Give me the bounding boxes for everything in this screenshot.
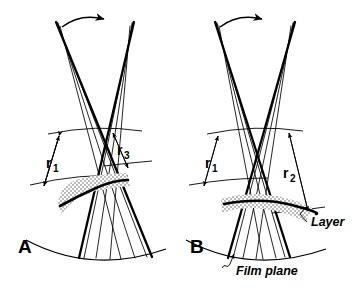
panel-a: r 1 r 3 A xyxy=(18,17,166,260)
panel-letter-b: B xyxy=(190,236,204,257)
dimension-label-r1: r xyxy=(46,155,52,171)
layer-label: Layer xyxy=(311,215,345,229)
dimension-subscript-r3: 3 xyxy=(124,150,130,161)
beam-bundle-right xyxy=(79,22,134,259)
figure-root: r 1 r 3 A xyxy=(0,0,357,288)
beam-bundle-left-b xyxy=(215,22,290,259)
layer-band xyxy=(45,165,145,225)
dimension-label-r2: r xyxy=(283,165,289,181)
dimension-r1: r 1 xyxy=(44,136,59,186)
rotation-arrow-icon xyxy=(62,17,104,27)
dimension-label-r3: r xyxy=(117,142,123,158)
dimension-subscript-r1: 1 xyxy=(53,163,59,174)
dimension-label-r1-b: r xyxy=(205,155,211,171)
panel-b: r 1 r 2 Layer Film plane B xyxy=(186,17,345,278)
dimension-subscript-r1-b: 1 xyxy=(212,163,218,174)
panel-letter-a: A xyxy=(18,236,32,257)
film-plane-label: Film plane xyxy=(236,264,298,278)
beam-bundle-right-b xyxy=(228,22,295,259)
rotation-arrow-icon-b xyxy=(220,17,262,27)
dimension-r3: r 3 xyxy=(113,133,130,168)
dimension-r1-b: r 1 xyxy=(204,136,218,186)
diagram-canvas: r 1 r 3 A xyxy=(0,0,357,288)
dimension-subscript-r2: 2 xyxy=(290,173,296,184)
beam-bundle-left xyxy=(56,22,152,259)
focal-arc-upper xyxy=(48,128,142,134)
